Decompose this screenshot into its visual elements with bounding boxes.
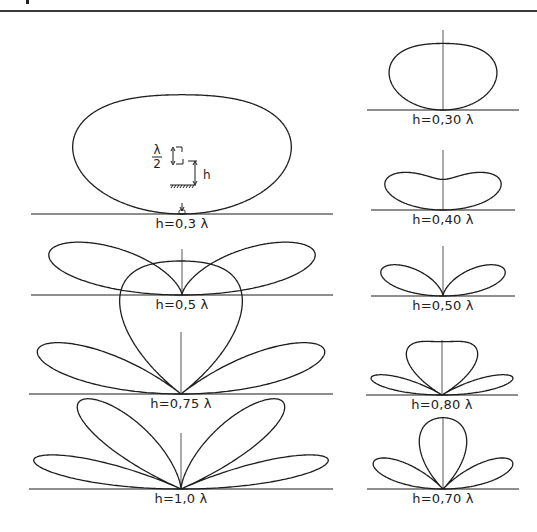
pattern-right-0.80 xyxy=(366,340,518,395)
height-label-right-0.50: h=0,50 λ xyxy=(412,298,474,313)
height-label-right-0.80: h=0,80 λ xyxy=(411,397,473,412)
two-label: 2 xyxy=(153,157,161,171)
height-label-right-0.30: h=0,30 λ xyxy=(412,112,474,127)
radiation-pattern-figure: λ 2 h xyxy=(0,0,537,532)
pattern-left-0.75 xyxy=(29,261,333,394)
pattern-right-0.50 xyxy=(371,246,515,296)
h-label: h xyxy=(203,168,211,182)
left-column-patterns xyxy=(29,95,333,489)
height-label-right-0.40: h=0,40 λ xyxy=(412,212,474,227)
pattern-left-0.5 xyxy=(31,242,333,295)
height-label-right-0.70: h=0,70 λ xyxy=(412,491,474,506)
pattern-right-0.30 xyxy=(367,30,519,110)
height-label-left-0.5: h=0,5 λ xyxy=(155,297,208,312)
height-label-left-0.75: h=0,75 λ xyxy=(150,396,212,411)
right-column-patterns xyxy=(366,30,519,489)
pattern-left-1.0 xyxy=(29,399,333,489)
height-label-left-0.3: h=0,3 λ xyxy=(155,216,208,231)
dipole-bracket xyxy=(176,147,183,164)
height-label-left-1.0: h=1,0 λ xyxy=(154,491,207,506)
lambda-label: λ xyxy=(153,143,160,157)
pattern-right-0.40 xyxy=(371,150,515,210)
radiation-lobe-curve xyxy=(73,95,292,214)
pattern-right-0.70 xyxy=(367,417,519,489)
pattern-left-0.3 xyxy=(31,95,333,214)
